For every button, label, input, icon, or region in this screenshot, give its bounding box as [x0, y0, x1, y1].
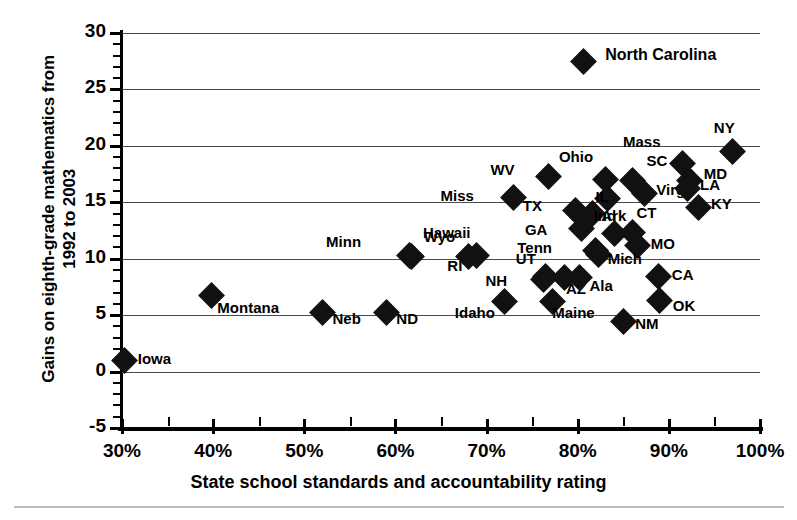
y-tick-minor	[113, 213, 122, 215]
x-tick-major	[394, 419, 397, 434]
data-point-label: WV	[490, 162, 514, 177]
data-point-label: IL	[595, 189, 608, 204]
x-tick-major	[759, 419, 762, 434]
y-tick-minor	[113, 393, 122, 395]
y-tick-minor	[113, 179, 122, 181]
y-tick-minor	[113, 77, 122, 79]
gridline	[122, 372, 760, 373]
x-tick-major	[303, 419, 306, 434]
data-point-label: LA	[700, 177, 720, 192]
data-point-label: KY	[711, 196, 732, 211]
scatter-chart-figure: Gains on eighth-grade mathematics from 1…	[0, 0, 797, 520]
data-point-label: SC	[646, 153, 667, 168]
gridline	[122, 259, 760, 260]
x-tick-label: 70%	[447, 440, 527, 462]
y-tick-minor	[113, 111, 122, 113]
x-tick-major	[486, 419, 489, 434]
data-point-label: TX	[523, 198, 542, 213]
gridline	[122, 146, 760, 147]
data-point-label: OK	[673, 298, 696, 313]
x-tick-minor	[623, 417, 625, 426]
y-tick-label: 25	[60, 76, 106, 98]
page-divider-rule	[14, 506, 784, 508]
y-tick-minor	[113, 382, 122, 384]
x-tick-major	[212, 419, 215, 434]
data-point-label: Minn	[326, 234, 361, 249]
data-point-marker	[396, 242, 423, 269]
data-point-label: Ind	[594, 208, 617, 223]
x-tick-major	[121, 419, 124, 434]
data-point-label: Montana	[217, 300, 279, 315]
data-point-label: CA	[672, 267, 694, 282]
x-tick-major	[668, 419, 671, 434]
data-point-label: Idaho	[455, 305, 495, 320]
y-tick-minor	[113, 303, 122, 305]
data-point-label: RI	[447, 258, 462, 273]
data-point-label: NM	[635, 316, 658, 331]
y-tick-minor	[113, 224, 122, 226]
data-point-label: Mich	[608, 251, 642, 266]
x-tick-minor	[441, 417, 443, 426]
y-tick-minor	[113, 292, 122, 294]
data-point-label: Mass	[623, 134, 661, 149]
data-point-label: GA	[525, 222, 548, 237]
data-point-label: ND	[396, 311, 418, 326]
x-tick-minor	[350, 417, 352, 426]
y-tick-minor	[113, 404, 122, 406]
y-tick-label: 5	[60, 302, 106, 324]
data-point-label: Maine	[552, 305, 595, 320]
data-point-marker	[491, 288, 518, 315]
y-tick-label: 10	[60, 246, 106, 268]
data-point-label: NY	[714, 120, 735, 135]
y-tick-label: 20	[60, 133, 106, 155]
data-point-marker	[610, 308, 637, 335]
gridline	[122, 89, 760, 90]
y-tick-minor	[113, 416, 122, 418]
y-tick-minor	[113, 325, 122, 327]
data-point-label: NH	[485, 273, 507, 288]
data-point-marker	[646, 287, 673, 314]
y-tick-minor	[113, 55, 122, 57]
y-tick-minor	[113, 337, 122, 339]
y-tick-minor	[113, 100, 122, 102]
data-point-label: Ohio	[559, 149, 593, 164]
x-tick-minor	[168, 417, 170, 426]
data-point-marker	[535, 163, 562, 190]
data-point-marker	[719, 138, 746, 165]
data-point-label: Ala	[590, 278, 613, 293]
data-point-label: Neb	[333, 311, 361, 326]
x-tick-minor	[532, 417, 534, 426]
data-point-label: Wyo	[424, 229, 455, 244]
y-tick-minor	[113, 246, 122, 248]
y-tick-label: 0	[60, 359, 106, 381]
data-point-label: North Carolina	[605, 47, 716, 63]
x-tick-major	[577, 419, 580, 434]
y-tick-minor	[113, 280, 122, 282]
y-tick-minor	[113, 167, 122, 169]
x-tick-label: 90%	[629, 440, 709, 462]
y-tick-minor	[113, 43, 122, 45]
gridline	[122, 33, 760, 34]
plot-area: North CarolinaNYMassMDWVOhioSCVirgLAKYIL…	[122, 33, 760, 428]
y-tick-minor	[113, 235, 122, 237]
x-tick-label: 80%	[538, 440, 618, 462]
data-point-label: UT	[516, 251, 536, 266]
y-tick-minor	[113, 122, 122, 124]
data-point-label: Miss	[441, 188, 474, 203]
data-point-marker	[570, 48, 597, 75]
x-axis-title: State school standards and accountabilit…	[0, 472, 797, 493]
x-tick-label: 30%	[82, 440, 162, 462]
x-tick-minor	[714, 417, 716, 426]
x-tick-label: 100%	[720, 440, 797, 462]
y-tick-label: 30	[60, 20, 106, 42]
data-point-label: CT	[636, 205, 656, 220]
data-point-label: MO	[651, 236, 675, 251]
y-tick-minor	[113, 190, 122, 192]
x-tick-label: 60%	[355, 440, 435, 462]
data-point-label: Iowa	[138, 351, 171, 366]
x-tick-minor	[259, 417, 261, 426]
y-tick-minor	[113, 66, 122, 68]
y-tick-minor	[113, 156, 122, 158]
y-tick-label: 15	[60, 189, 106, 211]
x-tick-label: 40%	[173, 440, 253, 462]
